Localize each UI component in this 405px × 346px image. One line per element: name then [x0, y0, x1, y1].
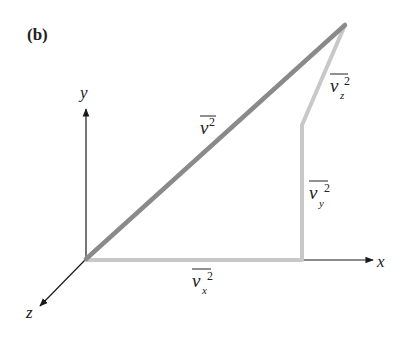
- vx-label: v x 2: [192, 269, 213, 296]
- svg-text:z: z: [339, 89, 345, 101]
- svg-text:2: 2: [344, 74, 350, 88]
- total-vector-label: v 2: [200, 115, 216, 138]
- svg-text:2: 2: [207, 269, 213, 283]
- z-axis: [40, 259, 86, 306]
- velocity-components-diagram: (b) y x z v 2 v z 2 v y 2 v x 2: [0, 0, 405, 346]
- svg-text:v: v: [192, 270, 201, 291]
- x-axis-label: x: [376, 252, 385, 271]
- y-axis-label: y: [78, 83, 88, 102]
- z-axis-label: z: [25, 303, 33, 322]
- vy-label: v y 2: [309, 181, 330, 209]
- vz-label: v z 2: [330, 74, 350, 101]
- svg-text:2: 2: [324, 181, 330, 195]
- svg-text:v: v: [200, 117, 209, 138]
- svg-text:2: 2: [209, 115, 215, 129]
- svg-text:x: x: [201, 284, 207, 296]
- svg-text:v: v: [330, 75, 339, 96]
- svg-text:v: v: [309, 182, 318, 203]
- total-vector-line: [86, 25, 345, 259]
- svg-text:y: y: [318, 197, 324, 209]
- panel-label: (b): [27, 25, 48, 44]
